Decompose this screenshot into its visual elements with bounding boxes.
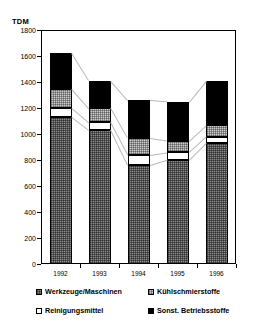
chart-legend: Werkzeuge/MaschinenKühlschmierstoffeRein… xyxy=(36,288,250,315)
bar-segment xyxy=(50,89,72,109)
bar-segment xyxy=(167,141,189,153)
y-axis-tick xyxy=(37,56,41,57)
bar-segment xyxy=(128,155,150,165)
x-axis-tick xyxy=(236,264,237,268)
x-axis-tick xyxy=(119,264,120,268)
x-axis-tick-label: 1996 xyxy=(197,270,237,277)
y-axis-tick xyxy=(37,134,41,135)
y-axis-tick-label: 600 xyxy=(0,183,36,190)
bar-segment xyxy=(50,53,72,88)
x-axis-tick-label: 1992 xyxy=(41,270,81,277)
bar-segment xyxy=(89,108,111,122)
bar-segment xyxy=(206,143,228,264)
bar-segment xyxy=(50,108,72,117)
bar-segment xyxy=(206,125,228,137)
y-axis-tick-label: 200 xyxy=(0,235,36,242)
legend-item-label: Reinigungsmittel xyxy=(45,307,103,315)
bar-segment xyxy=(128,100,150,138)
legend-item[interactable]: Kühlschmierstoffe xyxy=(148,288,250,296)
y-axis-tick-label: 1600 xyxy=(0,53,36,60)
bar-segment xyxy=(89,81,111,108)
cropped-title-text xyxy=(42,0,212,7)
y-axis-tick-label: 800 xyxy=(0,157,36,164)
x-axis-tick-label: 1993 xyxy=(80,270,120,277)
y-axis-tick xyxy=(37,108,41,109)
y-axis-tick-label: 0 xyxy=(0,261,36,268)
x-axis-tick xyxy=(158,264,159,268)
legend-swatch-icon xyxy=(36,289,42,295)
bar-segment xyxy=(89,130,111,264)
bar-segment xyxy=(167,152,189,160)
y-axis-unit-label: TDM xyxy=(12,17,29,26)
bar-segment xyxy=(128,138,150,155)
bar-segment xyxy=(167,160,189,264)
chart-figure: TDM 020040060080010001200140016001800 19… xyxy=(0,0,254,324)
bar-stack xyxy=(50,30,72,264)
legend-swatch-icon xyxy=(148,289,154,295)
y-axis-tick xyxy=(37,264,41,265)
legend-item-label: Sonst. Betriebsstoffe xyxy=(157,307,229,315)
x-axis-tick-label: 1995 xyxy=(158,270,198,277)
y-axis-tick xyxy=(37,238,41,239)
x-axis-tick xyxy=(80,264,81,268)
legend-item-label: Werkzeuge/Maschinen xyxy=(45,288,122,296)
bar-stack xyxy=(89,30,111,264)
legend-item-label: Kühlschmierstoffe xyxy=(157,288,220,296)
legend-item[interactable]: Sonst. Betriebsstoffe xyxy=(148,307,250,315)
legend-swatch-icon xyxy=(36,308,42,314)
legend-item[interactable]: Reinigungsmittel xyxy=(36,307,148,315)
y-axis-tick xyxy=(37,30,41,31)
bar-segment xyxy=(206,137,228,144)
x-axis-tick xyxy=(197,264,198,268)
y-axis-tick-label: 1000 xyxy=(0,131,36,138)
bar-segment xyxy=(89,122,111,130)
y-axis-tick-label: 1200 xyxy=(0,105,36,112)
bar-segment xyxy=(50,117,72,264)
bar-stack xyxy=(167,30,189,264)
bar-segment xyxy=(128,165,150,264)
y-axis-tick xyxy=(37,186,41,187)
bar-segment xyxy=(206,81,228,125)
x-axis-tick-label: 1994 xyxy=(119,270,159,277)
y-axis-tick xyxy=(37,160,41,161)
legend-swatch-icon xyxy=(148,308,154,314)
y-axis-tick-label: 1800 xyxy=(0,27,36,34)
bar-segment xyxy=(167,102,189,141)
bar-stack xyxy=(206,30,228,264)
y-axis-tick xyxy=(37,212,41,213)
legend-item[interactable]: Werkzeuge/Maschinen xyxy=(36,288,148,296)
bar-stack xyxy=(128,30,150,264)
y-axis-tick xyxy=(37,82,41,83)
y-axis-tick-label: 400 xyxy=(0,209,36,216)
y-axis-tick-label: 1400 xyxy=(0,79,36,86)
